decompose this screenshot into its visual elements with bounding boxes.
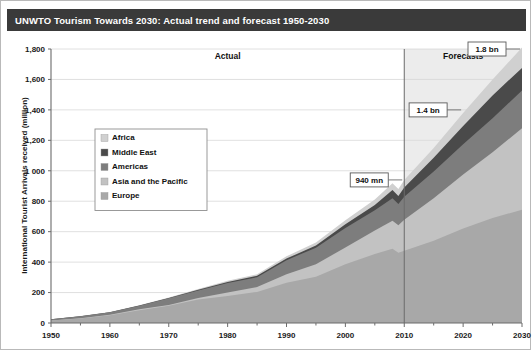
x-tick-label: 2000 <box>336 331 354 340</box>
legend-item: Asia and the Pacific <box>101 177 188 186</box>
y-tick-label: 1,400 <box>25 106 46 115</box>
x-tick-label: 1970 <box>160 331 178 340</box>
legend-swatch <box>101 149 108 156</box>
chart-legend: AfricaMiddle EastAmericasAsia and the Pa… <box>95 129 207 211</box>
x-axis-ticks: 195019601970198019902000201020202030 <box>42 323 531 340</box>
legend-label: Americas <box>112 162 149 171</box>
callout-label: 940 mn <box>355 176 383 185</box>
y-tick-label: 1,200 <box>25 136 46 145</box>
x-tick-label: 2030 <box>513 331 531 340</box>
section-label-actual: Actual <box>215 51 241 61</box>
chart-plot-area: 02004006008001 0001,2001,4001,6001,800 1… <box>1 1 532 350</box>
section-labels: ActualForecasts <box>215 51 484 61</box>
legend-label: Middle East <box>112 148 157 157</box>
y-tick-label: 1 000 <box>25 167 46 176</box>
legend-item: Americas <box>101 162 149 171</box>
x-tick-label: 2020 <box>454 331 472 340</box>
y-tick-label: 200 <box>32 288 46 297</box>
legend-item: Europe <box>101 191 140 200</box>
legend-swatch <box>101 135 108 142</box>
y-tick-label: 400 <box>32 258 46 267</box>
callout-label: 1.4 bn <box>417 106 440 115</box>
y-tick-label: 600 <box>32 227 46 236</box>
legend-label: Asia and the Pacific <box>112 177 188 186</box>
x-tick-label: 1980 <box>219 331 237 340</box>
y-tick-label: 1,600 <box>25 75 46 84</box>
legend-swatch <box>101 178 108 185</box>
x-tick-label: 1950 <box>42 331 60 340</box>
x-tick-label: 2010 <box>395 331 413 340</box>
callout-label: 1.8 bn <box>475 45 498 54</box>
y-tick-label: 0 <box>41 319 46 328</box>
y-tick-label: 800 <box>32 197 46 206</box>
legend-label: Africa <box>112 133 135 142</box>
legend-label: Europe <box>112 191 140 200</box>
area-chart-svg: 02004006008001 0001,2001,4001,6001,800 1… <box>1 1 532 350</box>
y-tick-label: 1,800 <box>25 45 46 54</box>
callout-940mn: 940 mn <box>350 173 402 187</box>
legend-swatch <box>101 193 108 200</box>
legend-item: Africa <box>101 133 135 142</box>
x-tick-label: 1960 <box>101 331 119 340</box>
legend-swatch <box>101 164 108 171</box>
x-tick-label: 1990 <box>278 331 296 340</box>
y-axis-ticks: 02004006008001 0001,2001,4001,6001,800 <box>25 45 51 328</box>
